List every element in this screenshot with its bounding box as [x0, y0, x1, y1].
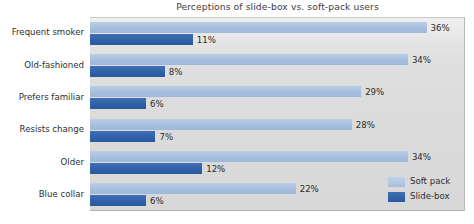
category-label: Prefers familiar: [0, 92, 84, 102]
chart-title: Perceptions of slide-box vs. soft-pack u…: [90, 1, 465, 12]
chart-container: Perceptions of slide-box vs. soft-pack u…: [0, 0, 474, 224]
category-label: Old-fashioned: [0, 60, 84, 70]
bar-value-label: 36%: [431, 23, 450, 33]
bar-soft-pack: [90, 54, 408, 65]
category-label: Blue collar: [0, 189, 84, 199]
bar-value-label: 28%: [356, 120, 375, 130]
bar-soft-pack: [90, 22, 427, 33]
category-label: Frequent smoker: [0, 27, 84, 37]
bar-slide-box: [90, 98, 146, 109]
bar-value-label: 6%: [150, 99, 164, 109]
legend-label-soft-pack: Soft pack: [410, 176, 450, 186]
legend-swatch-slide-box: [388, 192, 405, 202]
bar-value-label: 34%: [412, 152, 431, 162]
bar-slide-box: [90, 34, 193, 45]
legend-swatch-soft-pack: [388, 177, 405, 187]
bar-soft-pack: [90, 151, 408, 162]
bar-value-label: 12%: [206, 164, 225, 174]
bar-slide-box: [90, 66, 165, 77]
bar-soft-pack: [90, 86, 361, 97]
bar-value-label: 34%: [412, 55, 431, 65]
category-label: Resists change: [0, 124, 84, 134]
plot-sheen: [90, 18, 464, 210]
bar-soft-pack: [90, 183, 296, 194]
bar-value-label: 8%: [169, 67, 183, 77]
plot-area: [90, 17, 465, 211]
bar-slide-box: [90, 163, 202, 174]
category-label: Older: [0, 157, 84, 167]
legend-label-slide-box: Slide-box: [410, 191, 450, 201]
bar-value-label: 7%: [159, 132, 173, 142]
bar-slide-box: [90, 195, 146, 206]
bar-value-label: 29%: [365, 87, 384, 97]
bar-slide-box: [90, 131, 155, 142]
bar-soft-pack: [90, 119, 352, 130]
bar-value-label: 22%: [300, 184, 319, 194]
bar-value-label: 6%: [150, 196, 164, 206]
bar-value-label: 11%: [197, 35, 216, 45]
